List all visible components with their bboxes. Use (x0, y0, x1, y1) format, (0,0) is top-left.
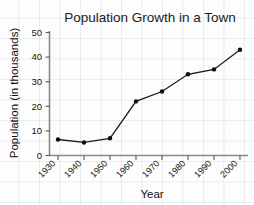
y-tick-label-0: 0 (37, 150, 42, 161)
x-axis-tick-labels: 1930 1940 1950 1960 1970 1980 1990 2000 (36, 158, 239, 179)
y-tick-label-50: 50 (31, 27, 42, 38)
y-tick-label-30: 30 (31, 76, 42, 87)
data-point-1970 (160, 89, 164, 93)
population-series-line (58, 50, 240, 143)
x-tick-label-1930: 1930 (36, 158, 57, 179)
x-tick-label-1960: 1960 (114, 158, 135, 179)
x-tick-label-2000: 2000 (218, 158, 239, 179)
data-point-2000 (238, 48, 242, 52)
x-tick-label-1980: 1980 (166, 158, 187, 179)
data-point-1960 (134, 99, 138, 103)
y-tick-label-10: 10 (31, 125, 42, 136)
x-tick-label-1940: 1940 (62, 158, 83, 179)
x-tick-label-1970: 1970 (140, 158, 161, 179)
x-tick-label-1950: 1950 (88, 158, 109, 179)
data-point-1930 (56, 137, 60, 141)
data-point-1980 (186, 72, 190, 76)
chart-figure: Population Growth in a Town Population (… (0, 0, 254, 205)
data-point-1950 (108, 136, 112, 140)
x-axis-title: Year (140, 188, 163, 200)
population-growth-line-chart: Population Growth in a Town Population (… (0, 0, 254, 205)
y-axis-tick-labels: 0 10 20 30 40 50 (31, 27, 42, 161)
chart-title: Population Growth in a Town (64, 10, 236, 25)
y-tick-label-20: 20 (31, 101, 42, 112)
y-tick-label-40: 40 (31, 51, 42, 62)
x-tick-label-1990: 1990 (192, 158, 213, 179)
y-axis-title: Population (in thousands) (8, 28, 20, 159)
data-point-1990 (212, 67, 216, 71)
data-point-1940 (82, 140, 86, 144)
